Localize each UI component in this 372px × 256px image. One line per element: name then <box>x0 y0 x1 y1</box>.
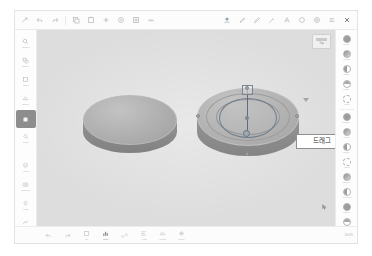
list-tool[interactable] <box>325 13 339 27</box>
material-item-glass[interactable]: Glass <box>337 63 357 78</box>
link-icon <box>121 231 129 239</box>
ruler-tool[interactable] <box>144 13 158 27</box>
disc-left-object[interactable] <box>83 95 177 161</box>
sidebar-item-camera[interactable]: Camera <box>16 177 36 195</box>
bottom-item-label: Merge <box>159 238 166 241</box>
brush-tool[interactable] <box>250 13 264 27</box>
bottom-redo-button[interactable] <box>58 228 77 243</box>
eyedropper-tool[interactable] <box>265 13 279 27</box>
right-sidebar-materials: Metal Plastic Glass Matte Clear Rubber W… <box>335 30 357 243</box>
bottom-align-button[interactable]: Align <box>134 228 153 243</box>
material-label: Paint <box>344 166 349 169</box>
material-label: Glass <box>343 73 349 76</box>
sidebar-item-label: Light <box>23 208 28 211</box>
pen-tool[interactable] <box>235 13 249 27</box>
undo-tool[interactable] <box>33 13 47 27</box>
material-sphere-icon <box>343 218 351 226</box>
sidebar-item-layer[interactable]: Layer <box>16 158 36 176</box>
bottom-item-label: Fit <box>85 238 88 241</box>
gizmo-drag-handle[interactable] <box>243 130 250 137</box>
material-label: Chrome <box>342 181 350 184</box>
toolbar-divider <box>65 16 66 25</box>
left-sidebar: Search Shape Cube Group <box>15 30 37 243</box>
bottom-fit-button[interactable]: Fit <box>77 228 96 243</box>
material-sphere-icon <box>343 203 351 211</box>
add-tool[interactable] <box>99 13 113 27</box>
sidebar-item-cube[interactable]: Cube <box>16 72 36 90</box>
3d-viewport[interactable]: 드래그 Top <box>37 30 335 226</box>
material-sphere-icon <box>343 35 351 43</box>
material-label: Metal <box>344 43 350 46</box>
mirror-icon <box>178 230 186 238</box>
cube-icon <box>21 75 30 84</box>
material-sphere-icon <box>343 80 351 88</box>
sidebar-item-paint[interactable]: Paint <box>16 129 36 147</box>
material-sphere-icon <box>343 95 351 103</box>
material-item-paint[interactable]: Paint <box>337 156 357 171</box>
material-item-rubber[interactable]: Rubber <box>337 111 357 126</box>
material-label: Wood <box>343 136 349 139</box>
viewport-view-panel[interactable]: Top <box>312 34 331 49</box>
paint-icon <box>21 132 30 141</box>
sidebar-item-label: Paint <box>23 141 28 144</box>
material-sphere-icon <box>343 188 351 196</box>
bottom-properties-button[interactable]: Prop <box>96 228 115 243</box>
redo-tool[interactable] <box>48 13 62 27</box>
material-item-stone[interactable]: Stone <box>337 141 357 156</box>
selection-handle-bottom[interactable] <box>245 152 249 156</box>
material-item-clear[interactable]: Clear <box>337 93 357 108</box>
search-icon <box>21 37 30 46</box>
material-item-plastic[interactable]: Plastic <box>337 48 357 63</box>
paste-tool[interactable] <box>84 13 98 27</box>
copy-tool[interactable] <box>69 13 83 27</box>
material-item-ceramic[interactable]: Ceramic <box>337 186 357 201</box>
material-item-matte[interactable]: Matte <box>337 78 357 93</box>
selection-handle-right[interactable] <box>295 114 299 118</box>
bottom-merge-button[interactable]: Merge <box>153 228 172 243</box>
cursor-select-tool[interactable] <box>18 13 32 27</box>
sidebar-item-label: Group <box>22 103 28 106</box>
material-sphere-icon <box>343 158 351 166</box>
shapes-icon <box>21 56 30 65</box>
sidebar-item-label: Camera <box>21 189 29 192</box>
selection-handle-left[interactable] <box>196 114 200 118</box>
close-tool[interactable] <box>340 13 354 27</box>
viewport-direction-marker <box>303 98 309 102</box>
sidebar-item-search[interactable]: Search <box>16 34 36 52</box>
material-sphere-icon <box>343 143 351 151</box>
material-label: Rubber <box>343 121 351 124</box>
sidebar-item-label: Shape <box>22 65 29 68</box>
sidebar-item-label: Cube <box>23 84 29 87</box>
bottom-item-label: Prop <box>103 238 108 241</box>
text-tool[interactable] <box>280 13 294 27</box>
sidebar-item-light[interactable]: Light <box>16 196 36 214</box>
disc-right-object-selected[interactable] <box>197 88 299 168</box>
bottom-link-button[interactable] <box>115 228 134 243</box>
material-tool[interactable] <box>220 13 234 27</box>
settings-tool[interactable] <box>310 13 324 27</box>
chart-icon <box>102 230 110 238</box>
circle-tool[interactable] <box>295 13 309 27</box>
material-item-chrome[interactable]: Chrome <box>337 171 357 186</box>
material-item-liquid[interactable]: Liquid <box>337 201 357 216</box>
sidebar-item-group[interactable]: Group <box>16 91 36 109</box>
material-item-metal[interactable]: Metal <box>337 33 357 48</box>
sidebar-item-swatch-selected[interactable] <box>16 110 36 128</box>
gizmo-center-pivot[interactable] <box>245 116 249 120</box>
mouse-cursor-icon <box>322 196 327 202</box>
viewport-panel-label: Top <box>319 42 324 45</box>
sidebar-item-shape[interactable]: Shape <box>16 53 36 71</box>
app-window: Search Shape Cube Group <box>14 10 358 244</box>
bottom-item-label: Mirror <box>178 238 184 241</box>
material-sphere-icon <box>343 50 351 58</box>
target-tool[interactable] <box>114 13 128 27</box>
bottom-undo-button[interactable] <box>39 228 58 243</box>
sidebar-item-label: Layer <box>23 170 29 173</box>
camera-icon <box>21 180 30 189</box>
group-icon <box>21 94 30 103</box>
grid-tool[interactable] <box>129 13 143 27</box>
material-item-wood[interactable]: Wood <box>337 126 357 141</box>
bottom-mirror-button[interactable]: Mirror <box>172 228 191 243</box>
selection-handle-top[interactable] <box>245 86 249 90</box>
material-sphere-icon <box>343 128 351 136</box>
